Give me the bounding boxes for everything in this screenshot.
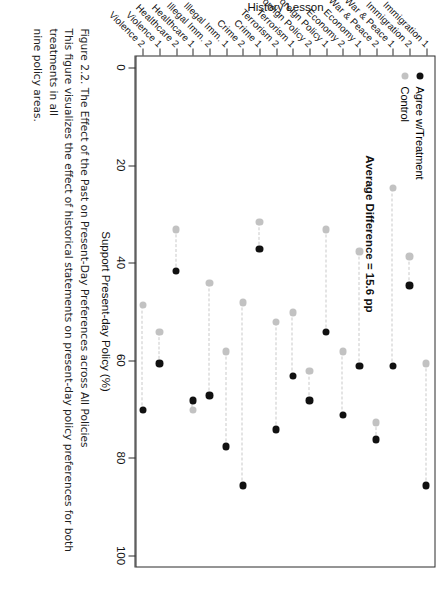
data-point-treatment [222,442,230,450]
legend-item-treatment: Agree w/Treatment [412,72,427,179]
category-tick [342,48,343,55]
category-axis-title: History Lesson [247,0,323,12]
data-point-control [389,184,397,192]
dumbbell-connector [325,229,326,331]
average-difference-annotation: Average Difference = 15.6 pp [363,155,375,312]
dumbbell-chart: Immigration 1Immigration 2War & Peace 1W… [113,0,443,595]
dumbbell-connector [175,229,176,270]
data-point-control [239,298,247,306]
data-point-control [422,359,430,367]
data-point-treatment [172,267,180,275]
category-tick [376,48,377,55]
dumbbell-connector [341,351,342,414]
dumbbell-connector [275,322,276,429]
data-point-control [289,308,297,316]
legend-item-control: Control [397,72,412,179]
dumbbell-connector [291,312,292,375]
value-axis-tick [128,165,135,166]
caption-line-3: nine policy areas. [29,28,45,573]
data-point-treatment [205,391,213,399]
data-point-treatment [255,245,263,253]
value-axis-tick-label: 0 [114,64,126,70]
category-tick [159,48,160,55]
caption-line-2: This figure visualizes the effect of his… [45,28,76,573]
data-point-control [255,218,263,226]
data-point-treatment [155,359,163,367]
category-tick [209,48,210,55]
dumbbell-connector [225,351,226,446]
value-axis-title: Support Present-day Policy (%) [99,55,111,567]
data-point-treatment [272,425,280,433]
dumbbell-connector [308,371,309,400]
category-tick [276,48,277,55]
data-point-treatment [289,372,297,380]
legend: Agree w/Treatment Control [397,72,427,179]
category-tick [409,48,410,55]
category-tick [176,48,177,55]
value-axis-tick-label: 60 [114,353,126,366]
data-point-treatment [139,406,147,414]
dumbbell-connector [141,305,142,410]
data-point-treatment [189,396,197,404]
legend-label-control: Control [398,86,412,121]
value-axis-tick [128,457,135,458]
figure-page: Immigration 1Immigration 2War & Peace 1W… [0,0,443,595]
data-point-treatment [239,481,247,489]
data-point-control [172,225,180,233]
data-point-control [372,418,380,426]
category-tick [192,48,193,55]
category-tick [242,48,243,55]
category-tick [359,48,360,55]
value-axis-tick-label: 40 [114,256,126,269]
dumbbell-connector [425,363,426,485]
data-point-treatment [372,435,380,443]
data-point-treatment [305,396,313,404]
value-axis-line [134,55,135,567]
value-axis-tick [128,360,135,361]
data-point-treatment [422,481,430,489]
dumbbell-connector [241,302,242,485]
data-point-control [139,301,147,309]
data-point-control [189,406,197,414]
plot-frame [135,55,435,567]
data-point-treatment [339,411,347,419]
data-point-control [272,318,280,326]
data-point-treatment [355,362,363,370]
data-point-control [222,347,230,355]
value-axis-tick-label: 20 [114,158,126,171]
data-point-control [405,252,413,260]
value-axis-tick [128,262,135,263]
data-point-treatment [405,281,413,289]
category-tick [226,48,227,55]
dumbbell-connector [391,188,392,366]
category-tick [326,48,327,55]
dumbbell-connector [158,332,159,364]
data-point-control [305,367,313,375]
data-point-control [355,247,363,255]
value-axis-tick [128,67,135,68]
data-point-control [339,347,347,355]
value-axis-tick-label: 100 [114,545,126,564]
category-tick [309,48,310,55]
dumbbell-connector [208,283,209,395]
dumbbell-connector [358,251,359,366]
data-point-control [205,279,213,287]
caption-line-1: Figure 2.2. The Effect of the Past on Pr… [76,28,92,573]
data-point-control [155,328,163,336]
category-tick [426,48,427,55]
dumbbell-connector [408,256,409,285]
value-axis-tick [128,555,135,556]
legend-marker-treatment-icon [416,72,423,79]
legend-marker-control-icon [401,72,408,79]
data-point-control [322,225,330,233]
category-tick [292,48,293,55]
value-axis-tick-label: 80 [114,451,126,464]
category-tick [392,48,393,55]
legend-label-treatment: Agree w/Treatment [413,86,427,179]
data-point-treatment [322,328,330,336]
figure-caption: Figure 2.2. The Effect of the Past on Pr… [29,28,91,573]
category-tick [142,48,143,55]
plot-area [136,56,434,566]
category-tick [259,48,260,55]
data-point-treatment [389,362,397,370]
